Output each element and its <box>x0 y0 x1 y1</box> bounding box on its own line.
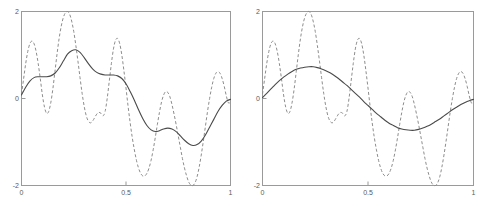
x-ticks-left <box>22 182 231 186</box>
x-tick-label-mid-right: 0.5 <box>363 189 373 196</box>
axis-frame-right <box>263 12 474 186</box>
y-tick-label-mid-right: 0 <box>256 95 260 102</box>
y-tick-label-bottom-right: -2 <box>254 182 260 189</box>
x-ticks-right <box>263 182 474 186</box>
y-tick-label-top-left: 2 <box>15 8 19 15</box>
y-tick-label-top-right: 2 <box>256 8 260 15</box>
signal-curve-right <box>263 11 474 185</box>
approximation-curve-right <box>263 67 474 131</box>
y-tick-label-bottom-left: -2 <box>13 182 19 189</box>
x-tick-label-mid-left: 0.5 <box>121 189 131 196</box>
plot-svg-right: 2 0 -2 0 0.5 1 <box>245 0 490 206</box>
x-tick-label-1-left: 1 <box>229 189 233 196</box>
y-ticks-right <box>263 12 267 186</box>
x-tick-label-0-left: 0 <box>20 189 24 196</box>
x-tick-label-1-right: 1 <box>472 189 476 196</box>
y-ticks-left <box>22 12 26 186</box>
approximation-curve-left <box>22 50 231 146</box>
y-tick-label-mid-left: 0 <box>15 95 19 102</box>
axis-frame-left <box>22 12 231 186</box>
figure-container: 2 0 -2 0 0.5 1 2 0 -2 <box>0 0 490 206</box>
plot-panel-right: 2 0 -2 0 0.5 1 <box>245 0 490 206</box>
signal-curve-left <box>22 11 231 185</box>
plot-svg-left: 2 0 -2 0 0.5 1 <box>0 0 245 206</box>
plot-panel-left: 2 0 -2 0 0.5 1 <box>0 0 245 206</box>
x-tick-label-0-right: 0 <box>261 189 265 196</box>
